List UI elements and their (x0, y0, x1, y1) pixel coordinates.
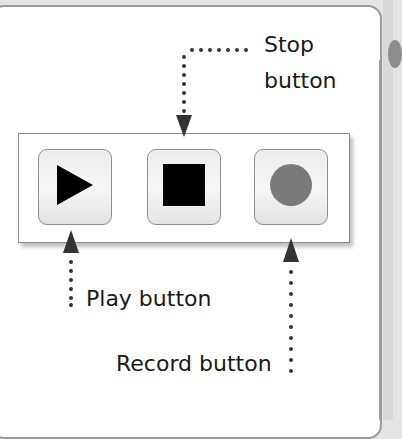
record-callout: Record button (116, 353, 272, 375)
stop-callout-line2: button (264, 70, 337, 92)
play-callout: Play button (86, 288, 211, 310)
stop-callout-line1: Stop (264, 34, 314, 56)
